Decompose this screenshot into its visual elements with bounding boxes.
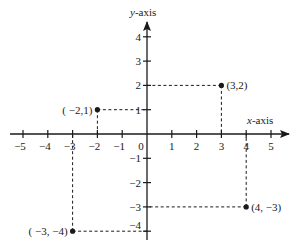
- y-tick-label: −2: [129, 177, 141, 189]
- data-point-marker: [70, 229, 75, 234]
- x-tick-label: −3: [64, 140, 76, 152]
- x-tick-label: 3: [219, 140, 225, 152]
- y-tick-label: −3: [129, 201, 141, 213]
- data-point-marker: [244, 204, 249, 209]
- data-point-marker: [95, 107, 100, 112]
- x-tick-label: 1: [169, 140, 175, 152]
- x-tick-label: 2: [194, 140, 200, 152]
- x-tick-label: −4: [39, 140, 51, 152]
- x-tick-label: −1: [113, 140, 125, 152]
- y-tick-label: −4: [129, 219, 141, 231]
- x-tick-label: −2: [89, 140, 101, 152]
- dashed-projection-lines: [73, 85, 247, 231]
- x-tick-label: 5: [268, 140, 274, 152]
- data-point-marker: [219, 83, 224, 88]
- data-point-label: (4, −3): [251, 201, 281, 214]
- y-axis-ticks: 4321−1−2−3−4: [129, 31, 151, 231]
- origin-label: 0: [138, 140, 144, 152]
- x-axis-title: x-axis: [246, 114, 273, 126]
- data-point-label: ( −2,1): [62, 104, 92, 117]
- x-axis-title-rest: -axis: [252, 114, 273, 126]
- x-tick-label: 4: [243, 140, 249, 152]
- y-tick-label: 2: [136, 79, 142, 91]
- data-point-label: ( −3, −4): [29, 225, 68, 238]
- x-axis-ticks: −5−4−3−2−112345: [14, 130, 274, 152]
- y-tick-label: 1: [136, 104, 142, 116]
- coordinate-plane-chart: −5−4−3−2−112345 4321−1−2−3−4 (3,2)( −2,1…: [0, 0, 299, 251]
- y-axis-title-rest: -axis: [135, 6, 156, 18]
- y-tick-label: 4: [136, 31, 142, 43]
- y-axis-title: y-axis: [129, 6, 156, 18]
- data-points: (3,2)( −2,1)( −3, −4)(4, −3): [29, 79, 282, 238]
- y-tick-label: −1: [129, 152, 141, 164]
- y-tick-label: 3: [136, 55, 142, 67]
- data-point-label: (3,2): [226, 79, 247, 92]
- x-tick-label: −5: [14, 140, 26, 152]
